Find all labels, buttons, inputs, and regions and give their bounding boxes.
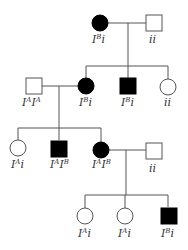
genotype-label: ii (149, 162, 156, 175)
genotype-label: ii (164, 96, 171, 109)
male-unaffected-symbol (146, 15, 162, 31)
genotype-label: ii (149, 33, 156, 46)
genotype-label: IAi (10, 158, 24, 171)
genotype-label: IAIB (91, 158, 111, 171)
male-affected-symbol (51, 141, 67, 157)
genotype-label: IAIA (21, 96, 41, 109)
genotype-label: IBi (160, 227, 174, 240)
genotype-label: IAi (77, 227, 91, 240)
male-affected-symbol (120, 78, 136, 94)
female-unaffected-symbol (77, 208, 93, 224)
genotype-label: IBi (78, 96, 92, 109)
male-unaffected-symbol (146, 143, 162, 159)
female-unaffected-symbol (160, 79, 176, 95)
female-unaffected-symbol (117, 208, 133, 224)
female-unaffected-symbol (10, 140, 26, 156)
male-unaffected-symbol (26, 78, 42, 94)
female-affected-symbol (92, 15, 108, 31)
connector-lines (18, 23, 168, 208)
female-affected-symbol (93, 142, 109, 158)
genotype-label: IAi (117, 227, 131, 240)
genotype-label: IBi (120, 96, 134, 109)
pedigree-chart: IBi ii IAIA IBi IBi ii IAi IAIB IAIB ii … (0, 0, 188, 250)
genotype-label: IAIB (49, 158, 69, 171)
female-affected-symbol (78, 78, 94, 94)
genotype-label: IBi (91, 33, 105, 46)
male-affected-symbol (161, 208, 177, 224)
